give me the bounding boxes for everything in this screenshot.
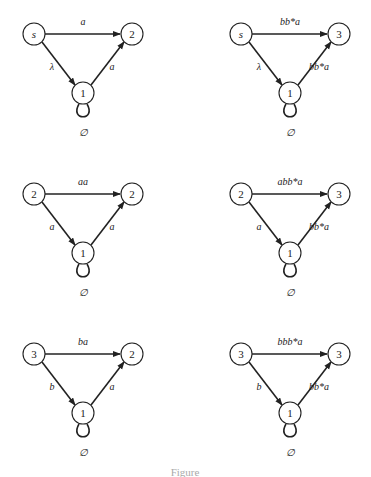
self-loop — [77, 104, 89, 117]
self-loop — [77, 424, 89, 437]
edge-right — [91, 42, 124, 85]
node-start-label: 3 — [31, 348, 37, 360]
self-loop — [284, 104, 296, 117]
loop-label: ∅ — [79, 127, 89, 138]
edge-top-label: abb*a — [278, 176, 303, 187]
edge-top-label: bb*a — [280, 16, 300, 27]
node-mid-label: 1 — [80, 87, 86, 99]
node-mid-label: 1 — [287, 87, 293, 99]
loop-label: ∅ — [79, 447, 89, 458]
edge-right-label: a — [110, 381, 115, 392]
node-mid-label: 1 — [80, 247, 86, 259]
node-mid-label: 1 — [80, 407, 86, 419]
loop-label: ∅ — [286, 287, 296, 298]
edge-left-label: λ — [49, 61, 55, 72]
edge-left-label: b — [50, 381, 55, 392]
graph-diagram-3: 221aaaa∅ — [23, 176, 143, 298]
edge-top-label: bbb*a — [278, 336, 303, 347]
node-end-label: 2 — [129, 28, 135, 40]
node-start-label: s — [32, 28, 36, 40]
node-mid-label: 1 — [287, 247, 293, 259]
node-end-label: 2 — [129, 188, 135, 200]
edge-top-label: aa — [78, 176, 88, 187]
edge-left — [42, 362, 75, 405]
node-start-label: s — [239, 28, 243, 40]
self-loop — [284, 264, 296, 277]
edge-left — [42, 202, 75, 245]
node-start-label: 3 — [238, 348, 244, 360]
edge-right-label: a — [110, 221, 115, 232]
graph-diagram-4: 231abb*aabb*a∅ — [230, 176, 350, 298]
graph-diagram-2: s31bb*aλbb*a∅ — [230, 16, 350, 138]
graph-diagram-5: 321baba∅ — [23, 336, 143, 458]
loop-label: ∅ — [286, 127, 296, 138]
edge-left — [249, 202, 282, 245]
edge-right — [91, 362, 124, 405]
edge-top-label: ba — [78, 336, 88, 347]
edge-left-label: λ — [256, 61, 262, 72]
edge-left — [249, 362, 282, 405]
node-end-label: 2 — [129, 348, 135, 360]
loop-label: ∅ — [79, 287, 89, 298]
self-loop — [77, 264, 89, 277]
node-end-label: 3 — [336, 28, 342, 40]
edge-left — [42, 42, 75, 85]
edge-left-label: b — [257, 381, 262, 392]
edge-left-label: a — [257, 221, 262, 232]
loop-label: ∅ — [286, 447, 296, 458]
node-start-label: 2 — [31, 188, 37, 200]
edge-right-label: bb*a — [309, 381, 329, 392]
edge-right-label: bb*a — [309, 61, 329, 72]
edge-right-label: bb*a — [309, 221, 329, 232]
self-loop — [284, 424, 296, 437]
node-end-label: 3 — [336, 188, 342, 200]
edge-left-label: a — [50, 221, 55, 232]
edge-top-label: a — [81, 16, 86, 27]
figure-caption: Figure — [171, 466, 200, 477]
edge-left — [249, 42, 282, 85]
node-mid-label: 1 — [287, 407, 293, 419]
graph-diagram-1: s21aλa∅ — [23, 16, 143, 138]
graph-diagram-6: 331bbb*abbb*a∅ — [230, 336, 350, 458]
node-end-label: 3 — [336, 348, 342, 360]
node-start-label: 2 — [238, 188, 244, 200]
edge-right-label: a — [110, 61, 115, 72]
edge-right — [91, 202, 124, 245]
